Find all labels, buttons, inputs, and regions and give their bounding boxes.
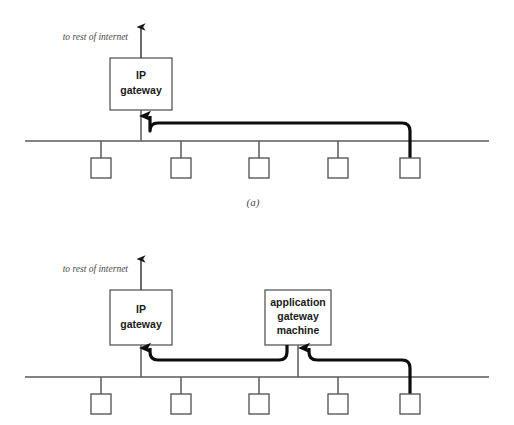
host-box-b-1 — [91, 394, 111, 414]
host-box-a-5 — [400, 158, 420, 178]
internet-label-a: to rest of internet — [63, 32, 129, 42]
host-box-a-2 — [171, 158, 191, 178]
internet-label-b: to rest of internet — [63, 264, 129, 274]
network-gateway-figure: to rest of internet IP gateway (a) — [0, 0, 514, 425]
panel-caption-a: (a) — [247, 196, 260, 209]
figure-canvas: to rest of internet IP gateway (a) — [0, 0, 514, 425]
host-box-b-2 — [171, 394, 191, 414]
host-box-b-4 — [328, 394, 348, 414]
ip-gateway-label-line2-b: gateway — [120, 318, 162, 330]
host-box-a-1 — [91, 158, 111, 178]
host-box-b-5 — [400, 394, 420, 414]
panel-b: to rest of internet IP gateway applicati… — [25, 259, 489, 414]
application-gateway-label-line1-b: application — [270, 296, 325, 308]
application-gateway-label-line3-b: machine — [277, 324, 320, 336]
application-gateway-label-line2-b: gateway — [277, 310, 319, 322]
panel-a: to rest of internet IP gateway (a) — [25, 27, 489, 209]
host-box-a-3 — [249, 158, 269, 178]
ip-gateway-label-line1-b: IP — [136, 303, 146, 315]
host-box-b-3 — [249, 394, 269, 414]
ip-gateway-label-line1-a: IP — [136, 69, 146, 81]
host-to-app-gateway-cable-b — [309, 348, 410, 412]
ip-gateway-label-line2-a: gateway — [120, 84, 162, 96]
host-box-a-4 — [328, 158, 348, 178]
app-to-ip-gateway-cable-b — [150, 345, 287, 360]
